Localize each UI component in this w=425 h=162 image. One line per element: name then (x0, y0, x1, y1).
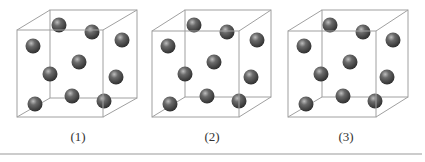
atom-sphere (356, 25, 371, 40)
cubes-layer: (1)(2)(3) (17, 10, 408, 144)
unit-cell-3: (3) (288, 10, 408, 144)
cube-edge (376, 10, 408, 31)
atom-sphere (163, 97, 178, 112)
atom-sphere (115, 33, 130, 48)
atom-sphere (386, 33, 401, 48)
atom-sphere (343, 55, 358, 70)
atom-sphere (109, 70, 124, 85)
cube-label: (3) (338, 129, 353, 144)
cube-edge (17, 10, 50, 30)
atom-sphere (26, 39, 41, 54)
atom-sphere (65, 89, 80, 104)
unit-cell-1: (1) (17, 10, 137, 144)
cube-edge (288, 10, 322, 31)
atom-sphere (368, 94, 383, 109)
atom-sphere (323, 18, 338, 33)
atom-sphere (207, 55, 222, 70)
atom-sphere (178, 67, 193, 82)
atom-sphere (161, 39, 176, 54)
atom-sphere (200, 89, 215, 104)
atom-sphere (72, 55, 87, 70)
atom-sphere (314, 67, 329, 82)
atom-sphere (220, 25, 235, 40)
atom-sphere (244, 70, 259, 85)
atom-sphere (250, 33, 265, 48)
cube-label: (2) (204, 129, 219, 144)
atom-sphere (299, 97, 314, 112)
atom-sphere (43, 67, 58, 82)
cube-label: (1) (70, 129, 85, 144)
unit-cell-2: (2) (152, 10, 271, 144)
atom-sphere (85, 25, 100, 40)
atom-sphere (97, 94, 112, 109)
cube-edge (152, 10, 185, 31)
cube-edge (103, 10, 137, 30)
atom-sphere (187, 18, 202, 33)
atom-sphere (28, 97, 43, 112)
crystal-structure-figure: (1)(2)(3) (0, 0, 425, 162)
atom-sphere (297, 39, 312, 54)
cube-edge (239, 10, 271, 31)
atom-sphere (380, 70, 395, 85)
atom-sphere (336, 89, 351, 104)
